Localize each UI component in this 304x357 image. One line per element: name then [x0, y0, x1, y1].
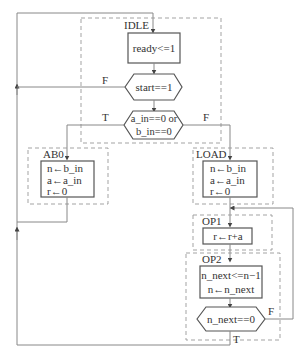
asm-chart: IDLE ready<=1 start==1 F a_in==0 or b_in…	[0, 0, 304, 357]
start-decision-text: start==1	[136, 81, 173, 93]
ab0-action-3: r←0	[47, 185, 68, 197]
zero-check-text-2: b_in==0	[136, 126, 172, 137]
op2-action-2: n←n_next	[208, 283, 254, 295]
zero-true-line	[67, 125, 124, 158]
ab0-action-1: n←b_in	[47, 162, 84, 174]
load-action-3: r←0	[210, 185, 231, 197]
ab0-state-label: AB0	[43, 148, 64, 160]
load-action-1: n←b_in	[210, 162, 247, 174]
op2-action-1: n_next<=n−1	[201, 269, 261, 281]
n-next-true-label: T	[233, 333, 240, 345]
zero-true-label: T	[102, 111, 109, 123]
idle-state-label: IDLE	[124, 19, 149, 31]
op2-state-label: OP2	[202, 253, 222, 265]
op1-state-label: OP1	[202, 215, 222, 227]
zero-false-label: F	[203, 111, 209, 123]
op1-action-1: r←r+a	[213, 230, 243, 242]
n-next-decision-text: n_next==0	[207, 313, 255, 325]
idle-action-text: ready<=1	[133, 42, 175, 54]
ab0-exit-line	[17, 197, 67, 222]
start-false-label: F	[102, 74, 108, 86]
load-state-label: LOAD	[196, 148, 227, 160]
zero-check-text-1: a_in==0 or	[131, 113, 178, 124]
n-next-false-line	[232, 208, 293, 319]
n-next-false-label: F	[268, 305, 274, 317]
n-next-true-line	[17, 331, 230, 345]
